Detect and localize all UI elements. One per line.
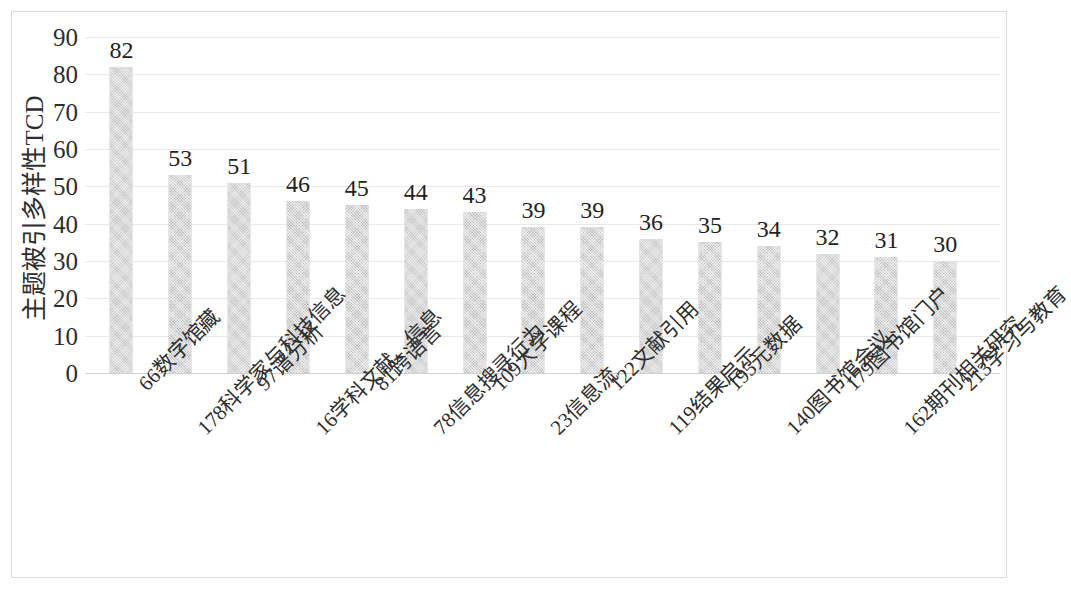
bar-value-label: 36: [639, 210, 663, 234]
bar-value-label: 51: [227, 154, 251, 178]
bar: [228, 183, 251, 373]
bar: [698, 242, 721, 373]
bar-value-label: 39: [580, 198, 604, 222]
bar: [345, 205, 368, 373]
bar: [463, 212, 486, 373]
y-tick-label: 60: [38, 137, 78, 162]
bar-value-label: 44: [404, 180, 428, 204]
bar-group: 32: [805, 37, 851, 373]
y-tick-label: 20: [38, 286, 78, 311]
bar-value-label: 45: [345, 176, 369, 200]
bar-value-label: 39: [521, 198, 545, 222]
bar-value-label: 53: [168, 146, 192, 170]
bar-value-label: 35: [698, 213, 722, 237]
y-tick-label: 70: [38, 100, 78, 125]
bar-group: 82: [98, 37, 144, 373]
y-tick-label: 30: [38, 249, 78, 274]
bar-group: 43: [452, 37, 498, 373]
bar: [581, 227, 604, 373]
bar-value-label: 31: [874, 228, 898, 252]
bar: [934, 261, 957, 373]
y-tick-label: 0: [38, 361, 78, 386]
y-tick-label: 50: [38, 174, 78, 199]
bar-value-label: 82: [109, 38, 133, 62]
x-axis-tick-labels: 66数字馆藏178科学家与科技信息97谱分析16学科文献、信息81跨语言78信息…: [85, 378, 1000, 578]
bar: [110, 67, 133, 373]
bar-value-label: 43: [463, 183, 487, 207]
bar: [816, 254, 839, 373]
y-tick-label: 90: [38, 25, 78, 50]
y-tick-label: 10: [38, 324, 78, 349]
y-tick-label: 80: [38, 62, 78, 87]
y-axis-tick-labels: 0102030405060708090: [33, 37, 78, 373]
y-tick-label: 40: [38, 212, 78, 237]
bar-value-label: 32: [816, 225, 840, 249]
bar-value-label: 30: [933, 232, 957, 256]
bar-value-label: 46: [286, 172, 310, 196]
bar-group: 45: [334, 37, 380, 373]
bar-value-label: 34: [757, 217, 781, 241]
